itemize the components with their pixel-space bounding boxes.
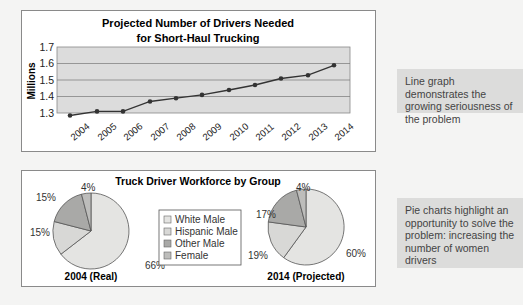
legend-swatch-white-male bbox=[164, 216, 171, 223]
line-chart-panel: Projected Number of Drivers Needed for S… bbox=[21, 10, 376, 152]
legend-swatch-other-male bbox=[164, 240, 171, 247]
legend-swatch-hispanic-male bbox=[164, 228, 171, 235]
svg-text:1.6: 1.6 bbox=[39, 57, 54, 69]
svg-text:Other Male: Other Male bbox=[175, 238, 225, 249]
svg-text:15%: 15% bbox=[36, 192, 56, 203]
svg-text:2011: 2011 bbox=[253, 121, 276, 143]
pie-charts: Truck Driver Workforce by Group 66% 15% … bbox=[22, 171, 375, 286]
svg-text:2009: 2009 bbox=[200, 121, 223, 143]
y-axis-ticks: 1.7 1.6 1.5 1.4 1.3 bbox=[39, 41, 54, 119]
x-axis-ticks: 2004 2005 2006 2007 2008 2009 2010 2011 … bbox=[68, 121, 355, 143]
svg-text:Hispanic Male: Hispanic Male bbox=[175, 226, 238, 237]
pie-chart-note: Pie charts highlight an opportunity to s… bbox=[397, 198, 523, 268]
line-chart-note: Line graph demonstrates the growing seri… bbox=[397, 69, 523, 113]
svg-text:2013: 2013 bbox=[306, 121, 329, 143]
svg-text:15%: 15% bbox=[30, 227, 50, 238]
svg-text:2014: 2014 bbox=[332, 121, 355, 143]
svg-text:17%: 17% bbox=[256, 209, 276, 220]
svg-text:1.5: 1.5 bbox=[39, 74, 54, 86]
line-chart: Projected Number of Drivers Needed for S… bbox=[22, 11, 375, 151]
svg-text:2006: 2006 bbox=[121, 121, 144, 143]
svg-text:White Male: White Male bbox=[175, 214, 225, 225]
svg-text:4%: 4% bbox=[296, 182, 311, 193]
svg-text:2005: 2005 bbox=[95, 121, 118, 143]
svg-text:2012: 2012 bbox=[279, 121, 302, 143]
svg-text:4%: 4% bbox=[81, 182, 96, 193]
pie-2004 bbox=[53, 193, 129, 269]
svg-text:60%: 60% bbox=[346, 248, 366, 259]
svg-text:2004: 2004 bbox=[68, 121, 91, 143]
pie-chart-title: Truck Driver Workforce by Group bbox=[115, 175, 281, 187]
pie-2014-label: 2014 (Projected) bbox=[267, 271, 344, 282]
svg-text:1.4: 1.4 bbox=[39, 90, 54, 102]
y-axis-label: Millions bbox=[26, 62, 37, 100]
svg-text:1.3: 1.3 bbox=[39, 107, 54, 119]
svg-text:2010: 2010 bbox=[227, 121, 250, 143]
svg-text:Female: Female bbox=[175, 250, 209, 261]
line-chart-title-1: Projected Number of Drivers Needed bbox=[102, 17, 294, 29]
svg-text:2007: 2007 bbox=[148, 121, 171, 143]
svg-text:19%: 19% bbox=[248, 250, 268, 261]
pie-chart-panel: Truck Driver Workforce by Group 66% 15% … bbox=[21, 170, 376, 287]
pie-2004-label: 2004 (Real) bbox=[65, 271, 118, 282]
pie-2014 bbox=[268, 189, 344, 265]
svg-text:1.7: 1.7 bbox=[39, 41, 54, 53]
legend-swatch-female bbox=[164, 252, 171, 259]
svg-text:2008: 2008 bbox=[174, 121, 197, 143]
line-chart-title-2: for Short-Haul Trucking bbox=[137, 32, 260, 44]
